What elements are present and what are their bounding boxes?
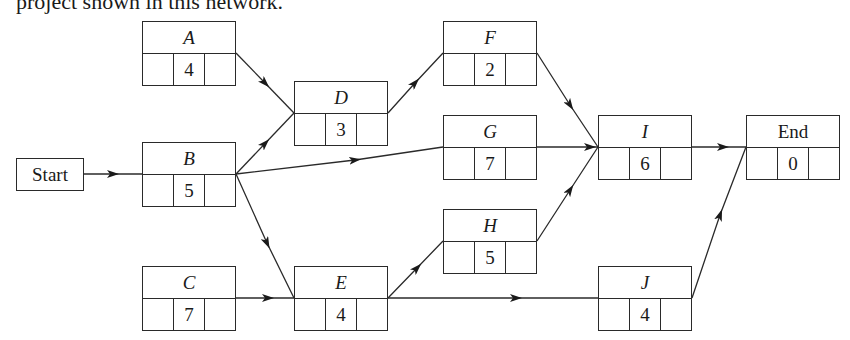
duration-cell: 0: [777, 148, 808, 179]
activity-label: D: [295, 82, 387, 114]
duration-cell: 7: [474, 148, 505, 179]
activity-node-e: E 4: [294, 266, 388, 331]
edge-a-d: [236, 53, 294, 113]
end-node: End 0: [746, 115, 840, 180]
activity-node-g: G 7: [443, 115, 537, 180]
activity-label: I: [599, 116, 691, 148]
late-cell: [808, 148, 839, 179]
duration-cell: 2: [474, 54, 505, 85]
early-cell: [599, 148, 629, 179]
duration-cell: 4: [629, 299, 660, 330]
early-cell: [295, 299, 325, 330]
late-cell: [356, 299, 387, 330]
activity-label: A: [143, 22, 235, 54]
late-cell: [660, 148, 691, 179]
duration-cell: 4: [325, 299, 356, 330]
edge-d-f: [388, 53, 443, 113]
late-cell: [204, 299, 235, 330]
activity-node-c: C 7: [142, 266, 236, 331]
early-cell: [747, 148, 777, 179]
late-cell: [505, 242, 536, 273]
activity-label: F: [444, 22, 536, 54]
early-cell: [295, 114, 325, 145]
late-cell: [204, 175, 235, 206]
activity-node-d: D 3: [294, 81, 388, 146]
duration-cell: 7: [173, 299, 204, 330]
activity-label: H: [444, 210, 536, 242]
early-cell: [444, 242, 474, 273]
edge-b-g: [236, 147, 443, 174]
early-cell: [444, 54, 474, 85]
edge-f-i: [537, 53, 598, 147]
edge-b-d: [236, 113, 294, 174]
late-cell: [505, 54, 536, 85]
activity-node-b: B 5: [142, 142, 236, 207]
edge-e-h: [388, 241, 443, 298]
activity-node-a: A 4: [142, 21, 236, 86]
duration-cell: 4: [173, 54, 204, 85]
start-node: Start: [16, 158, 84, 191]
early-cell: [143, 175, 173, 206]
activity-node-j: J 4: [598, 266, 692, 331]
activity-node-h: H 5: [443, 209, 537, 274]
activity-node-i: I 6: [598, 115, 692, 180]
edge-b-e: [236, 174, 294, 298]
early-cell: [143, 299, 173, 330]
duration-cell: 6: [629, 148, 660, 179]
edge-h-i: [537, 147, 598, 241]
late-cell: [660, 299, 691, 330]
activity-label: J: [599, 267, 691, 299]
early-cell: [599, 299, 629, 330]
activity-label: E: [295, 267, 387, 299]
duration-cell: 5: [474, 242, 505, 273]
activity-label: C: [143, 267, 235, 299]
activity-node-f: F 2: [443, 21, 537, 86]
edges-layer: [0, 0, 850, 340]
late-cell: [505, 148, 536, 179]
activity-label: B: [143, 143, 235, 175]
duration-cell: 3: [325, 114, 356, 145]
early-cell: [143, 54, 173, 85]
duration-cell: 5: [173, 175, 204, 206]
early-cell: [444, 148, 474, 179]
activity-label: G: [444, 116, 536, 148]
edge-j-end: [692, 147, 746, 298]
late-cell: [356, 114, 387, 145]
activity-label: End: [747, 116, 839, 148]
late-cell: [204, 54, 235, 85]
